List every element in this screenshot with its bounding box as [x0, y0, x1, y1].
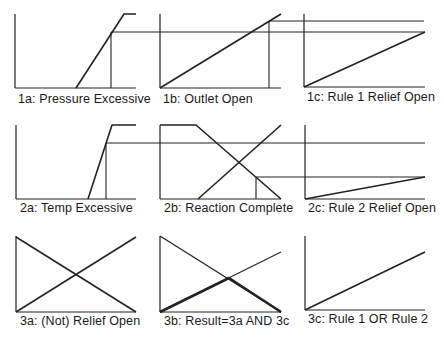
panel-label-2b: 2b: Reaction Complete — [164, 201, 293, 215]
panel-label-1a: 1a: Pressure Excessive — [18, 92, 151, 106]
panel-2a-membership-ramp — [88, 125, 136, 199]
fuzzy-logic-diagram — [0, 0, 444, 340]
panel-label-3a: 3a: (Not) Relief Open — [20, 314, 140, 328]
panel-1c-output-ramp — [304, 32, 425, 87]
panel-1a-membership-ramp — [76, 14, 136, 88]
panel-label-1c: 1c: Rule 1 Relief Open — [307, 90, 435, 104]
panel-3c-or-result — [305, 252, 425, 310]
panel-1b-membership-ramp — [160, 14, 281, 88]
panel-label-3b: 3b: Result=3a AND 3c — [164, 314, 289, 328]
lines-layer — [15, 14, 425, 312]
panel-label-1b: 1b: Outlet Open — [163, 92, 253, 106]
panel-label-2a: 2a: Temp Excessive — [20, 201, 133, 215]
panel-2c-output-ramp — [305, 177, 425, 199]
panel-label-3c: 3c: Rule 1 OR Rule 2 — [308, 312, 428, 326]
panel-2b-membership-falling — [160, 125, 281, 199]
panel-3b-and-result — [160, 278, 281, 312]
panel-label-2c: 2c: Rule 2 Relief Open — [308, 201, 436, 215]
